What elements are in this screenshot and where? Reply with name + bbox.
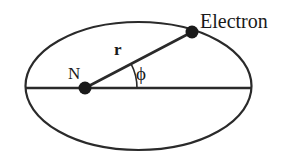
electron-label: Electron [200, 10, 268, 32]
radius-label: r [114, 40, 122, 59]
nucleus-label: N [68, 64, 80, 83]
electron-dot [186, 26, 199, 39]
angle-label: ϕ [136, 63, 146, 84]
figure-root: Electron N r ϕ [0, 0, 286, 166]
orbit-diagram-svg: Electron N r ϕ [0, 0, 286, 166]
nucleus-dot [79, 82, 92, 95]
